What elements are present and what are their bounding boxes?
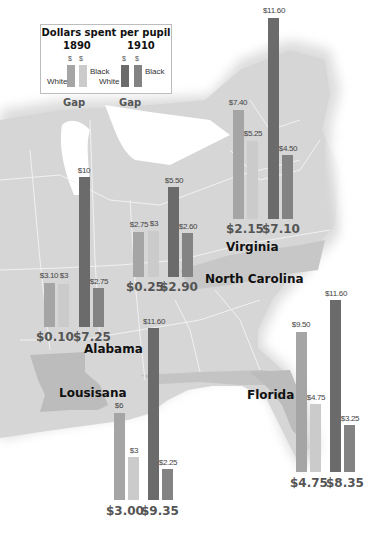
florida-state-label: Florida <box>247 388 294 402</box>
louisiana-black-1890-value: $3 <box>130 446 138 455</box>
louisiana-gap-1890: $3.00 <box>106 504 144 518</box>
north-carolina-black-1890-bar <box>148 231 159 277</box>
alabama-white-1890-bar <box>44 283 55 327</box>
virginia-gap-1910: $7.10 <box>262 222 300 236</box>
north-carolina-gap-1910: $2.90 <box>160 280 198 294</box>
virginia-state-label: Virginia <box>226 240 279 254</box>
florida-white-1890-bar <box>296 332 307 472</box>
louisiana-white-1910-value: $11.60 <box>143 317 165 326</box>
virginia-white-1910-bar <box>268 18 279 219</box>
north-carolina-state-label: North Carolina <box>205 272 304 286</box>
louisiana-white-1890-value: $6 <box>115 401 123 410</box>
legend-swatch-white-1910 <box>121 65 129 87</box>
alabama-state-label: Alabama <box>84 342 143 356</box>
legend-white-label-1910: White <box>99 77 119 86</box>
legend-dollar-sign: $ <box>135 55 139 62</box>
north-carolina-white-1890-bar <box>133 232 144 277</box>
legend-year-1890: 1890 <box>63 40 91 51</box>
florida-black-1890-bar <box>310 404 321 472</box>
alabama-white-1910-value: $10 <box>78 166 90 175</box>
alabama-black-1890-bar <box>58 284 69 327</box>
legend-swatch-black-1910 <box>134 65 142 87</box>
north-carolina-white-1910-value: $5.50 <box>165 176 184 185</box>
legend-dollar-sign: $ <box>68 55 72 62</box>
louisiana-black-1910-bar <box>162 469 173 500</box>
legend-gap-label-1910: Gap <box>119 97 141 108</box>
virginia-black-1890-value: $5.25 <box>244 129 263 138</box>
florida-gap-1890: $4.75 <box>290 476 328 490</box>
alabama-white-1910-bar <box>79 177 90 327</box>
north-carolina-white-1910-bar <box>168 187 179 277</box>
florida-black-1910-bar <box>344 425 355 472</box>
north-carolina-gap-1890: $0.25 <box>126 280 164 294</box>
florida-white-1910-bar <box>330 300 341 472</box>
florida-black-1890-value: $4.75 <box>307 393 326 402</box>
virginia-gap-1890: $2.15 <box>226 222 264 236</box>
virginia-black-1890-bar <box>247 141 258 219</box>
louisiana-black-1890-bar <box>128 457 139 500</box>
legend-black-label-1890: Black <box>90 67 110 76</box>
alabama-black-1910-bar <box>93 288 104 327</box>
virginia-white-1910-value: $11.60 <box>263 6 285 15</box>
legend-year-1910: 1910 <box>127 40 155 51</box>
legend-dollar-sign: $ <box>122 55 126 62</box>
legend-box: Dollars spent per pupil 1890 1910 $ $ $ … <box>40 24 172 94</box>
north-carolina-black-1910-value: $2.60 <box>179 222 198 231</box>
virginia-black-1910-value: $4.50 <box>279 144 298 153</box>
virginia-black-1910-bar <box>282 155 293 219</box>
virginia-white-1890-bar <box>233 110 244 219</box>
legend-swatch-white-1890 <box>67 65 75 87</box>
florida-white-1910-value: $11.60 <box>325 289 347 298</box>
north-carolina-black-1910-bar <box>182 233 193 277</box>
virginia-white-1890-value: $7.40 <box>229 98 248 107</box>
legend-dollar-sign: $ <box>79 55 83 62</box>
florida-gap-1910: $8.35 <box>326 476 364 490</box>
louisiana-black-1910-value: $2.25 <box>159 458 178 467</box>
legend-white-label-1890: White <box>47 77 67 86</box>
louisiana-white-1890-bar <box>114 413 125 500</box>
louisiana-gap-1910: $9.35 <box>141 504 179 518</box>
north-carolina-white-1890-value: $2.75 <box>130 220 149 229</box>
florida-black-1910-value: $3.25 <box>341 414 360 423</box>
louisiana-white-1910-bar <box>148 328 159 500</box>
florida-white-1890-value: $9.50 <box>292 320 311 329</box>
legend-black-label-1910: Black <box>145 67 165 76</box>
legend-swatch-black-1890 <box>79 65 87 87</box>
north-carolina-black-1890-value: $3 <box>150 219 158 228</box>
alabama-black-1910-value: $2.75 <box>90 277 109 286</box>
legend-gap-label-1890: Gap <box>63 97 85 108</box>
alabama-gap-1890: $0.10 <box>36 330 74 344</box>
louisiana-state-label: Lousisana <box>59 386 127 400</box>
alabama-white-1890-value: $3.10 <box>40 271 59 280</box>
legend-title: Dollars spent per pupil <box>41 27 171 38</box>
alabama-black-1890-value: $3 <box>60 271 68 280</box>
